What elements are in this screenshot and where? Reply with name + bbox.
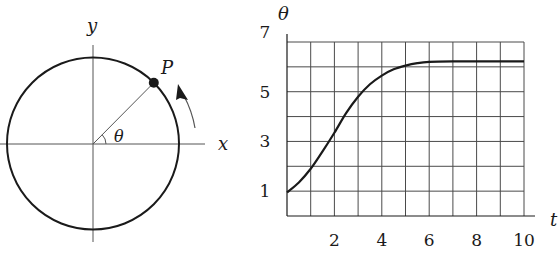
x-tick-label: 2 bbox=[329, 230, 340, 250]
rotation-arrowhead-icon bbox=[176, 84, 188, 100]
chart-grid bbox=[287, 42, 524, 216]
y-tick-label: 5 bbox=[260, 82, 271, 102]
y-axis-label: y bbox=[86, 15, 98, 36]
rotation-arrow-arc bbox=[184, 96, 195, 128]
chart-x-label: t bbox=[550, 209, 558, 230]
chart-y-label: θ bbox=[278, 3, 289, 24]
x-tick-label: 10 bbox=[513, 230, 535, 250]
y-tick-label: 3 bbox=[260, 131, 271, 151]
angle-label: θ bbox=[114, 127, 124, 146]
point-p bbox=[149, 78, 159, 88]
angle-arc bbox=[102, 135, 106, 144]
y-tick-label: 7 bbox=[260, 22, 271, 42]
x-tick-labels: 246810 bbox=[329, 230, 535, 250]
x-axis-label: x bbox=[218, 133, 228, 154]
x-tick-label: 8 bbox=[471, 230, 482, 250]
y-tick-label: 1 bbox=[260, 181, 271, 201]
figure: P θ x y 246810 1357 θ t bbox=[0, 0, 560, 268]
line-chart: 246810 1357 θ t bbox=[260, 3, 558, 250]
x-tick-label: 4 bbox=[376, 230, 387, 250]
point-label: P bbox=[160, 57, 174, 78]
y-tick-labels: 1357 bbox=[260, 22, 271, 201]
circle-diagram: P θ x y bbox=[0, 15, 228, 242]
x-tick-label: 6 bbox=[424, 230, 435, 250]
